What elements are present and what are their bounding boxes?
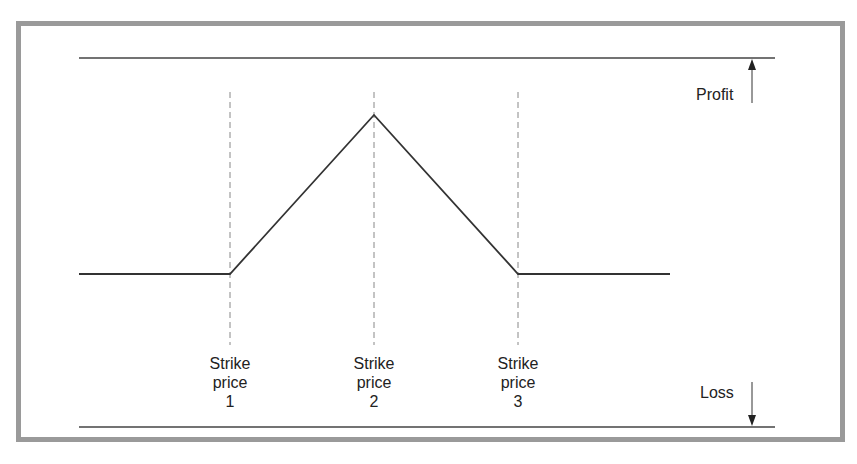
strike-1-line3: 1 — [200, 392, 260, 411]
strike-3-line3: 3 — [488, 392, 548, 411]
strike-1-line1: Strike — [200, 354, 260, 373]
strike-2-line3: 2 — [344, 392, 404, 411]
strike-price-2-label: Strike price 2 — [344, 354, 404, 411]
strike-2-line2: price — [344, 373, 404, 392]
strike-1-line2: price — [200, 373, 260, 392]
strike-price-1-label: Strike price 1 — [200, 354, 260, 411]
loss-label: Loss — [700, 384, 734, 402]
strike-price-3-label: Strike price 3 — [488, 354, 548, 411]
profit-label: Profit — [696, 86, 733, 104]
strike-3-line2: price — [488, 373, 548, 392]
profit-arrow-icon — [748, 59, 756, 70]
loss-arrow-icon — [748, 415, 756, 426]
strike-3-line1: Strike — [488, 354, 548, 373]
strike-2-line1: Strike — [344, 354, 404, 373]
